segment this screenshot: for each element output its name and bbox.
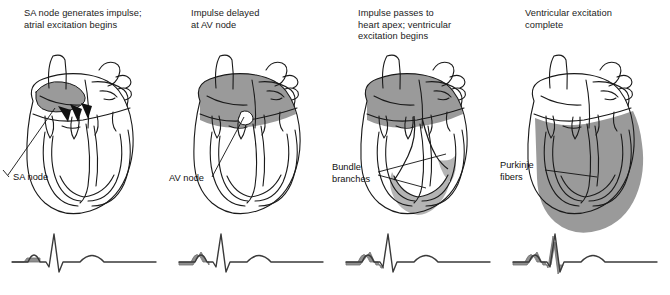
panel-4-ecg bbox=[501, 222, 668, 288]
cardiac-conduction-figure: SA node generates impulse; atrial excita… bbox=[0, 0, 670, 295]
ecg-trace-3 bbox=[346, 234, 490, 272]
panel-1-caption: SA node generates impulse; atrial excita… bbox=[24, 8, 174, 31]
panel-1-label: SA node bbox=[13, 172, 48, 182]
panel-2-label: AV node bbox=[169, 173, 204, 183]
ecg-highlight-3 bbox=[346, 252, 384, 268]
panel-2-caption: Impulse delayed at AV node bbox=[191, 8, 341, 31]
panel-sa-node: SA node generates impulse; atrial excita… bbox=[0, 0, 167, 295]
ventricles-shading bbox=[535, 111, 643, 233]
panel-3-caption: Impulse passes to heart apex; ventricula… bbox=[358, 8, 508, 43]
panel-4-caption: Ventricular excitation complete bbox=[525, 8, 670, 31]
panel-4-heart-diagram: Purkinje fibers bbox=[501, 44, 668, 216]
panel-3-label-line1: Bundle bbox=[332, 162, 361, 172]
panel-4-label-line2: fibers bbox=[500, 172, 523, 182]
panel-av-node: Impulse delayed at AV node bbox=[167, 0, 334, 295]
panel-3-label-line2: branches bbox=[332, 174, 371, 184]
panel-3-heart-diagram: Bundle branches bbox=[334, 44, 501, 216]
bundle-branches-leader-lines bbox=[378, 154, 446, 188]
panel-bundle-branches: Impulse passes to heart apex; ventricula… bbox=[334, 0, 501, 295]
av-node-marker bbox=[238, 111, 253, 125]
panel-3-ecg bbox=[334, 222, 501, 288]
panel-purkinje-fibers: Ventricular excitation complete bbox=[501, 0, 668, 295]
panel-2-heart-diagram: AV node bbox=[167, 44, 334, 216]
panel-2-ecg bbox=[167, 222, 334, 288]
panel-1-heart-diagram: SA node bbox=[0, 44, 167, 216]
panel-4-label-line1: Purkinje bbox=[500, 160, 534, 170]
panel-1-ecg bbox=[0, 222, 167, 288]
ecg-trace-1 bbox=[12, 234, 156, 272]
ecg-trace-4 bbox=[513, 234, 657, 272]
